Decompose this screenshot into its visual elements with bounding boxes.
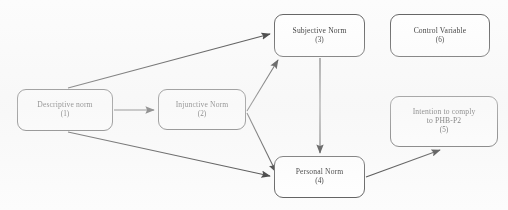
node-injunctive-norm-label: Injunctive Norm (173, 101, 232, 110)
node-personal-norm-label: Personal Norm (293, 168, 347, 177)
edge-descriptive-to-personal (68, 132, 270, 176)
edge-descriptive-to-subjective (68, 34, 270, 88)
node-intention-to-comply-index: (5) (440, 126, 449, 134)
node-descriptive-norm-index: (1) (61, 110, 70, 118)
node-control-variable-label: Control Variable (411, 27, 470, 36)
edge-injunctive-to-subjective (247, 60, 278, 111)
node-subjective-norm-index: (3) (315, 36, 324, 44)
diagram-canvas: Descriptive norm (1) Injunctive Norm (2)… (0, 0, 508, 210)
node-personal-norm-index: (4) (315, 177, 324, 185)
node-descriptive-norm-label: Descriptive norm (34, 101, 95, 110)
node-injunctive-norm[interactable]: Injunctive Norm (2) (158, 89, 246, 130)
node-control-variable-index: (6) (436, 36, 445, 44)
node-injunctive-norm-index: (2) (198, 110, 207, 118)
edge-personal-to-intention (366, 150, 440, 177)
node-subjective-norm[interactable]: Subjective Norm (3) (274, 14, 365, 57)
node-intention-to-comply[interactable]: Intention to comply to PHB-P2 (5) (390, 96, 498, 147)
node-descriptive-norm[interactable]: Descriptive norm (1) (17, 89, 113, 131)
edge-injunctive-to-personal (247, 113, 276, 172)
node-personal-norm[interactable]: Personal Norm (4) (274, 156, 365, 198)
node-intention-to-comply-label: Intention to comply to PHB-P2 (410, 108, 479, 126)
node-control-variable[interactable]: Control Variable (6) (390, 14, 490, 57)
node-subjective-norm-label: Subjective Norm (290, 27, 350, 36)
